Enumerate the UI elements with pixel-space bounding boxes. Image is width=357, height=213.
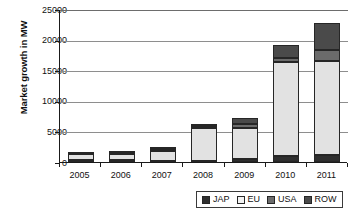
- bar-stack: [232, 9, 258, 162]
- bar-segment-row: [314, 23, 340, 50]
- legend-item-row: ROW: [304, 195, 337, 204]
- bar-stack: [150, 9, 176, 162]
- legend-item-jap: JAP: [202, 195, 230, 204]
- chart-legend: JAPEUUSAROW: [196, 191, 343, 208]
- bar-stack: [109, 9, 135, 162]
- x-axis-tick: [59, 163, 60, 167]
- legend-label: JAP: [213, 195, 230, 204]
- bar-segment-row: [273, 45, 299, 58]
- bar-segment-jap: [314, 155, 340, 162]
- bar-segment-usa: [273, 58, 299, 62]
- bar-segment-eu: [314, 61, 340, 155]
- bar-segment-eu: [150, 151, 176, 161]
- legend-swatch-row: [304, 196, 312, 204]
- bar-segment-usa: [232, 124, 258, 128]
- bar-stack: [314, 9, 340, 162]
- bar-segment-eu: [232, 128, 258, 159]
- x-axis-tick: [265, 163, 266, 167]
- bar-segment-eu: [68, 154, 94, 160]
- bar-segment-jap: [68, 160, 94, 162]
- bar-segment-eu: [273, 62, 299, 156]
- plot-area: [59, 10, 347, 163]
- bar-stack: [273, 9, 299, 162]
- bar-segment-row: [232, 118, 258, 124]
- bar-stack: [68, 9, 94, 162]
- legend-label: USA: [278, 195, 297, 204]
- bar-segment-jap: [109, 160, 135, 162]
- bar-segment-eu: [191, 128, 217, 161]
- bar-segment-jap: [273, 156, 299, 162]
- bar-segment-eu: [109, 154, 135, 160]
- x-axis-tick: [182, 163, 183, 167]
- x-axis-tick: [141, 163, 142, 167]
- x-axis-tick: [306, 163, 307, 167]
- x-axis-tick: [100, 163, 101, 167]
- bar-segment-row: [109, 151, 135, 153]
- bar-segment-usa: [150, 149, 176, 151]
- bar-segment-jap: [232, 159, 258, 162]
- legend-item-usa: USA: [267, 195, 297, 204]
- x-axis-tick: [347, 163, 348, 167]
- bar-segment-row: [150, 147, 176, 149]
- legend-label: ROW: [315, 195, 337, 204]
- bar-stack: [191, 9, 217, 162]
- legend-swatch-usa: [267, 196, 275, 204]
- x-axis-label-2011: 2011: [302, 170, 350, 180]
- legend-swatch-eu: [237, 196, 245, 204]
- legend-label: EU: [248, 195, 261, 204]
- bar-segment-row: [191, 124, 217, 126]
- bar-segment-row: [68, 152, 94, 154]
- bar-chart: Market growth in MW 05000100001500020000…: [0, 0, 357, 213]
- bar-segment-usa: [314, 50, 340, 61]
- legend-swatch-jap: [202, 196, 210, 204]
- x-axis-tick: [224, 163, 225, 167]
- legend-item-eu: EU: [237, 195, 261, 204]
